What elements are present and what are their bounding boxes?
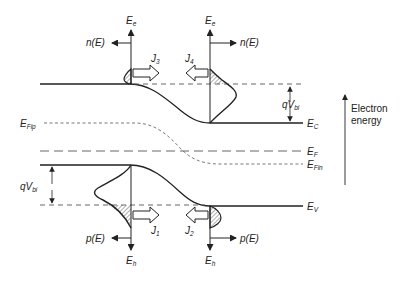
label-eh-right: Eh [205, 255, 216, 267]
electron-distribution-right-hatched [210, 69, 224, 84]
label-efin: EFin [307, 159, 323, 171]
electron-distribution-left [124, 69, 131, 84]
label-n-right: n(E) [240, 37, 259, 48]
label-ev: EV [307, 201, 319, 213]
label-ef: EF [307, 146, 319, 158]
label-qvbi-top: qVbi [282, 99, 300, 111]
current-arrow-j1 [133, 207, 159, 223]
label-efip: EFip [20, 118, 36, 131]
current-arrow-j3 [133, 65, 159, 81]
label-p-left: p(E) [85, 233, 105, 244]
label-j4: J4 [184, 53, 194, 65]
label-ee-left: Ee [126, 15, 137, 27]
label-ec: EC [307, 118, 319, 130]
axis-title-line1: Electron [351, 103, 388, 114]
label-n-left: n(E) [86, 37, 105, 48]
band-diagram: Ee n(E) Ee n(E) J3 J4 J1 J2 qVbi qVbi EC… [0, 0, 404, 281]
label-qvbi-bottom: qVbi [20, 181, 38, 193]
current-arrow-j2 [186, 207, 208, 223]
valence-band-edge [40, 165, 303, 206]
axis-title-line2: energy [351, 115, 382, 126]
intrinsic-level-dashed [44, 123, 303, 164]
label-j1: J1 [150, 225, 160, 237]
current-arrow-j4 [186, 65, 208, 81]
label-eh-left: Eh [126, 255, 137, 267]
label-j3: J3 [150, 53, 160, 65]
conduction-band-edge [40, 84, 303, 123]
hole-distribution-right [210, 206, 221, 228]
label-p-right: p(E) [239, 233, 259, 244]
hole-distribution-left-hatched [108, 205, 131, 228]
label-ee-right: Ee [205, 15, 216, 27]
label-j2: J2 [184, 225, 194, 237]
